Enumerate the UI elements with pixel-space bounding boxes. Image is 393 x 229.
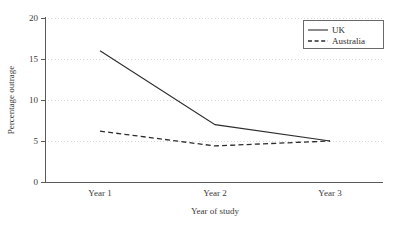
y-tick-label-10: 10 — [29, 95, 39, 105]
x-tick-label-2: Year 2 — [203, 188, 226, 198]
y-tick-marks — [41, 18, 45, 182]
y-tick-label-5: 5 — [34, 136, 39, 146]
x-axis-title: Year of study — [191, 206, 240, 216]
y-tick-label-15: 15 — [29, 54, 39, 64]
chart-canvas: 20 15 10 5 0 Percentage outrage Year 1 Y… — [0, 0, 393, 229]
series-line-uk — [100, 51, 330, 141]
y-axis-title: Percentage outrage — [6, 66, 16, 135]
line-chart: 20 15 10 5 0 Percentage outrage Year 1 Y… — [0, 0, 393, 229]
legend-label-australia: Australia — [332, 36, 365, 46]
y-tick-label-0: 0 — [34, 177, 39, 187]
legend: UK Australia — [304, 21, 384, 49]
y-tick-label-20: 20 — [29, 13, 39, 23]
series-line-australia — [100, 131, 330, 146]
legend-label-uk: UK — [332, 25, 345, 35]
x-tick-label-3: Year 3 — [318, 188, 342, 198]
x-tick-label-1: Year 1 — [88, 188, 111, 198]
